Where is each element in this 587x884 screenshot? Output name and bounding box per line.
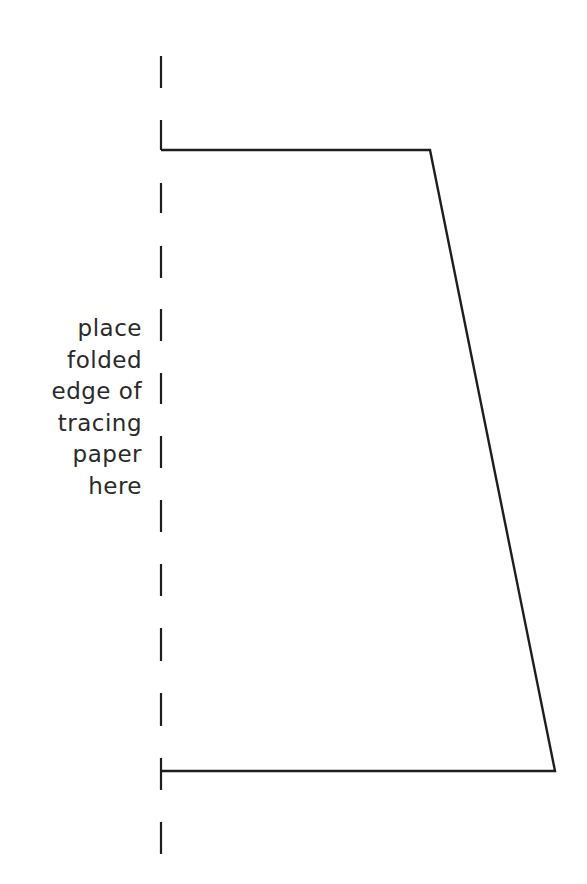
label-line-2: folded [52,345,142,377]
fold-instruction-label: place folded edge of tracing paper here [52,313,142,503]
label-line-5: paper [52,439,142,471]
label-line-3: edge of [52,376,142,408]
label-line-4: tracing [52,408,142,440]
pattern-piece-outline [161,150,555,771]
label-line-1: place [52,313,142,345]
label-line-6: here [52,471,142,503]
